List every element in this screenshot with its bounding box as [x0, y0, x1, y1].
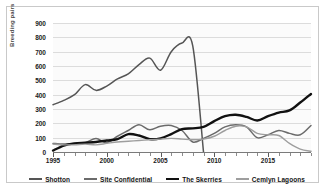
- x-tick-mark-1996: [64, 153, 65, 156]
- legend-item-cemlyn-lagoons[interactable]: Cemlyn Lagoons: [236, 176, 305, 183]
- x-tick-mark-1999: [96, 153, 97, 156]
- x-axis-tick-labels: 19952000200520102015: [53, 157, 311, 167]
- legend-line-swatch-icon: [166, 178, 179, 181]
- legend-item-label: Cemlyn Lagoons: [252, 176, 305, 183]
- x-tick-mark-2008: [193, 153, 194, 156]
- series-lines: [53, 23, 311, 152]
- series-line-the-skerries: [53, 94, 311, 151]
- y-axis-tick-labels: 9008007006005004003002001000: [23, 23, 49, 152]
- y-tick-label-900: 900: [35, 20, 46, 27]
- x-tick-mark-1997: [75, 153, 76, 156]
- x-tick-label-1995: 1995: [46, 157, 60, 164]
- x-tick-label-2015: 2015: [261, 157, 275, 164]
- x-tick-mark-2019: [311, 153, 312, 156]
- legend-item-label: Shotton: [45, 176, 70, 183]
- chart-figure: Breeding pairs 9008007006005004003002001…: [0, 0, 326, 191]
- x-tick-mark-2007: [182, 153, 183, 156]
- x-tick-mark-2012: [236, 153, 237, 156]
- x-tick-mark-2011: [225, 153, 226, 156]
- x-tick-mark-2004: [150, 153, 151, 156]
- y-tick-label-200: 200: [35, 120, 46, 127]
- x-tick-mark-2003: [139, 153, 140, 156]
- legend-item-label: The Skerries: [182, 176, 222, 183]
- y-tick-label-700: 700: [35, 48, 46, 55]
- legend-line-swatch-icon: [236, 178, 249, 179]
- y-tick-label-400: 400: [35, 91, 46, 98]
- x-tick-mark-2002: [128, 153, 129, 156]
- y-tick-label-300: 300: [35, 106, 46, 113]
- plot-area: [53, 23, 311, 152]
- legend-item-the-skerries[interactable]: The Skerries: [166, 176, 222, 183]
- chart-frame: Breeding pairs 9008007006005004003002001…: [6, 6, 319, 183]
- x-tick-mark-2013: [247, 153, 248, 156]
- x-tick-mark-2006: [171, 153, 172, 156]
- y-axis-title: Breeding pairs: [9, 33, 15, 47]
- x-tick-mark-1998: [85, 153, 86, 156]
- x-tick-mark-2014: [257, 153, 258, 156]
- x-tick-mark-2009: [204, 153, 205, 156]
- x-tick-mark-2001: [118, 153, 119, 156]
- legend-item-shotton[interactable]: Shotton: [29, 176, 70, 183]
- x-tick-mark-2018: [300, 153, 301, 156]
- legend-line-swatch-icon: [84, 178, 97, 180]
- y-tick-label-800: 800: [35, 34, 46, 41]
- legend-item-site-confidential[interactable]: Site Confidential: [84, 176, 152, 183]
- y-tick-label-0: 0: [42, 149, 46, 156]
- y-tick-label-500: 500: [35, 77, 46, 84]
- y-tick-label-600: 600: [35, 63, 46, 70]
- x-tick-label-2010: 2010: [207, 157, 221, 164]
- y-tick-label-100: 100: [35, 134, 46, 141]
- x-tick-mark-2016: [279, 153, 280, 156]
- legend-item-label: Site Confidential: [100, 176, 152, 183]
- x-tick-mark-2017: [290, 153, 291, 156]
- x-tick-label-2005: 2005: [153, 157, 167, 164]
- chart-legend: ShottonSite ConfidentialThe SkerriesCeml…: [17, 173, 317, 185]
- x-tick-label-2000: 2000: [100, 157, 114, 164]
- legend-line-swatch-icon: [29, 178, 42, 180]
